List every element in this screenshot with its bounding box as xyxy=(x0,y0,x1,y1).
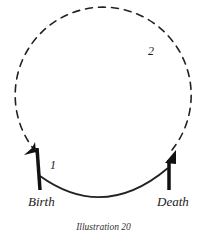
segment-label-2: 2 xyxy=(148,44,154,59)
segment-label-1: 1 xyxy=(50,158,56,173)
dashed-circle-arc xyxy=(15,7,191,152)
birth-marker-icon xyxy=(37,148,40,190)
death-arrow-icon xyxy=(165,150,176,164)
caption: Illustration 20 xyxy=(0,222,207,232)
death-label: Death xyxy=(157,194,189,210)
birth-label: Birth xyxy=(28,194,55,210)
birth-arrow-icon xyxy=(24,142,36,155)
solid-lower-arc xyxy=(40,168,168,197)
